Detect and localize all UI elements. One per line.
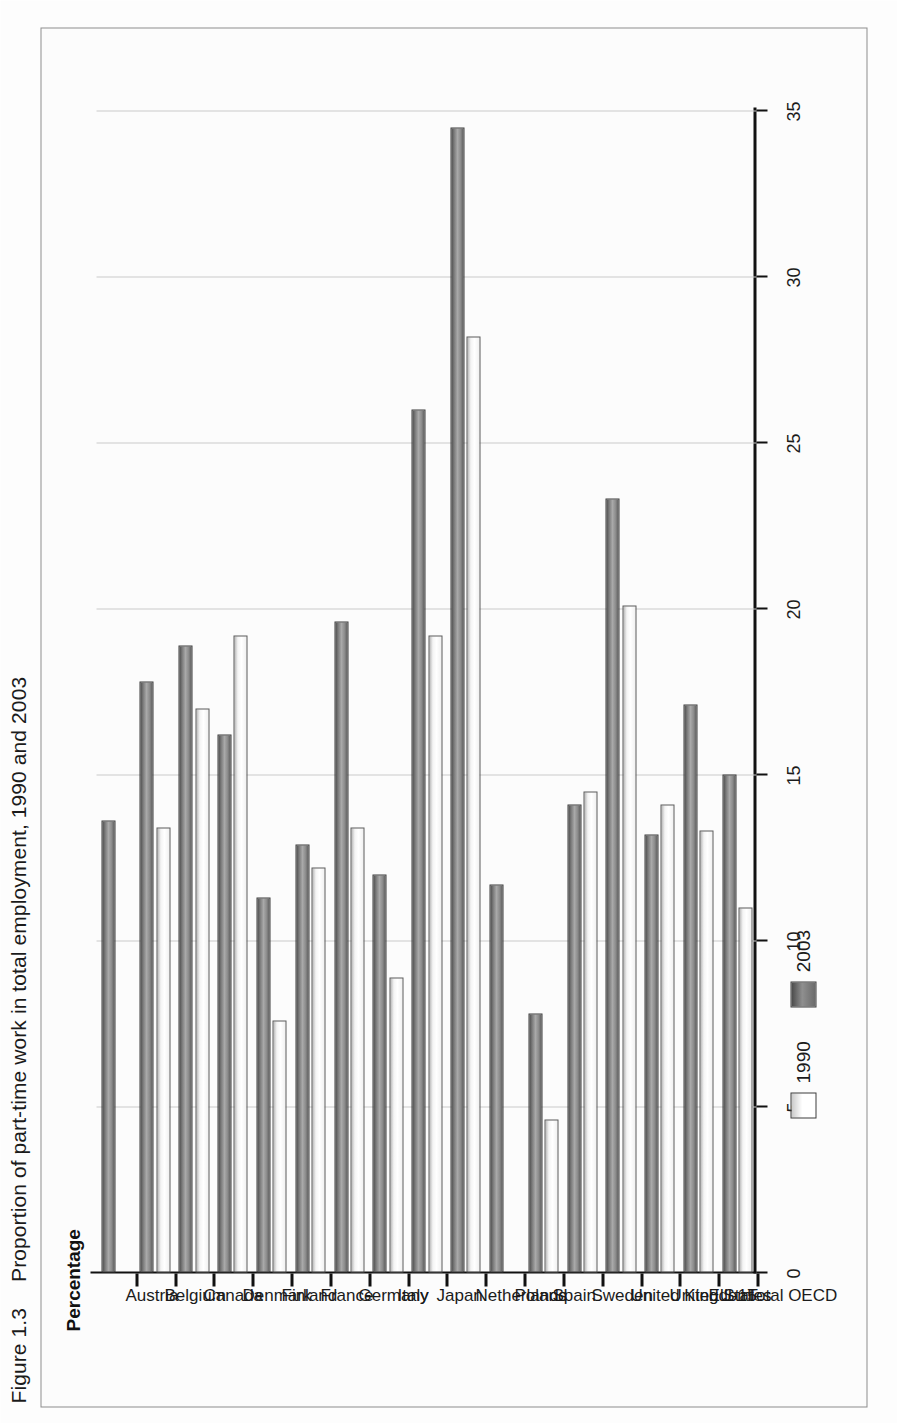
bar-2003 bbox=[334, 621, 348, 1272]
legend-label-1990: 1990 bbox=[792, 1041, 814, 1083]
category-axis-tick bbox=[212, 1273, 215, 1286]
chart-plot-area: 05101520253035AustriaBelgiumCanadaDenmar… bbox=[96, 103, 756, 1331]
gridline bbox=[96, 110, 756, 111]
value-axis-tick bbox=[756, 109, 767, 111]
category-axis-tick bbox=[329, 1273, 332, 1286]
gridline bbox=[96, 442, 756, 443]
bar-1990 bbox=[389, 977, 403, 1272]
bar-2003 bbox=[450, 127, 464, 1272]
chart-canvas: 05101520253035AustriaBelgiumCanadaDenmar… bbox=[96, 103, 756, 1273]
bar-2003 bbox=[683, 704, 697, 1272]
value-axis-title: Percentage bbox=[62, 1229, 84, 1331]
category-axis-tick bbox=[717, 1273, 720, 1286]
value-axis-tick bbox=[756, 275, 767, 277]
bar-1990 bbox=[699, 830, 713, 1272]
bar-1990 bbox=[428, 635, 442, 1272]
bar-2003 bbox=[178, 645, 192, 1272]
value-axis-tick bbox=[756, 939, 767, 941]
value-axis-tick-label: 15 bbox=[783, 765, 804, 785]
bar-2003 bbox=[256, 897, 270, 1272]
value-axis-line bbox=[753, 107, 756, 1273]
category-axis-tick bbox=[640, 1273, 643, 1286]
legend-label-2003: 2003 bbox=[792, 929, 814, 971]
figure-title-text: Proportion of part-time work in total em… bbox=[6, 676, 29, 1281]
value-axis-tick-label: 35 bbox=[783, 101, 804, 121]
bar-1990 bbox=[311, 867, 325, 1272]
bar-2003 bbox=[101, 820, 115, 1272]
category-axis-tick bbox=[484, 1273, 487, 1286]
bar-2003 bbox=[372, 874, 386, 1272]
category-axis-tick bbox=[562, 1273, 565, 1286]
value-axis-tick bbox=[756, 441, 767, 443]
category-label: Total OECD bbox=[747, 1285, 837, 1305]
bar-1990 bbox=[272, 1020, 286, 1272]
value-axis-tick bbox=[756, 1105, 767, 1107]
figure-page: Figure 1.3Proportion of part-time work i… bbox=[0, 0, 897, 1423]
bar-1990 bbox=[350, 827, 364, 1272]
value-axis-tick bbox=[756, 773, 767, 775]
bar-1990 bbox=[466, 336, 480, 1272]
value-axis-tick-label: 0 bbox=[783, 1268, 804, 1278]
category-axis-tick bbox=[368, 1273, 371, 1286]
category-axis-tick bbox=[174, 1273, 177, 1286]
category-axis-tick bbox=[445, 1273, 448, 1286]
legend-item-1990: 1990 bbox=[790, 1041, 816, 1118]
category-label: Italy bbox=[397, 1285, 428, 1305]
bar-2003 bbox=[217, 734, 231, 1272]
category-axis-tick bbox=[135, 1273, 138, 1286]
bar-2003 bbox=[489, 884, 503, 1272]
value-axis-tick bbox=[756, 607, 767, 609]
bar-2003 bbox=[295, 844, 309, 1272]
value-axis-tick-label: 20 bbox=[783, 599, 804, 619]
category-axis-tick bbox=[601, 1273, 604, 1286]
category-axis-tick bbox=[678, 1273, 681, 1286]
category-axis-tick bbox=[407, 1273, 410, 1286]
value-axis-tick-label: 25 bbox=[783, 433, 804, 453]
bar-2003 bbox=[528, 1013, 542, 1272]
bar-1990 bbox=[583, 791, 597, 1272]
category-axis-tick bbox=[290, 1273, 293, 1286]
category-axis-tick bbox=[251, 1273, 254, 1286]
bar-2003 bbox=[644, 834, 658, 1272]
figure-number: Figure 1.3 bbox=[6, 1307, 29, 1403]
bar-1990 bbox=[660, 804, 674, 1272]
bar-1990 bbox=[544, 1119, 558, 1272]
bar-1990 bbox=[738, 907, 752, 1272]
bar-1990 bbox=[195, 708, 209, 1272]
legend-swatch-2003-icon bbox=[790, 981, 816, 1007]
rotated-figure-canvas: Figure 1.3Proportion of part-time work i… bbox=[0, 0, 897, 1423]
chart-legend: 1990 2003 bbox=[790, 929, 816, 1118]
category-label: Spain bbox=[552, 1285, 595, 1305]
bar-2003 bbox=[722, 774, 736, 1272]
bar-2003 bbox=[567, 804, 581, 1272]
bar-2003 bbox=[605, 498, 619, 1272]
legend-item-2003: 2003 bbox=[790, 929, 816, 1006]
bar-1990 bbox=[233, 635, 247, 1272]
gridline bbox=[96, 608, 756, 609]
legend-swatch-1990-icon bbox=[790, 1092, 816, 1118]
bar-2003 bbox=[411, 409, 425, 1272]
bar-1990 bbox=[156, 827, 170, 1272]
gridline bbox=[96, 276, 756, 277]
value-axis-tick-label: 30 bbox=[783, 267, 804, 287]
bar-2003 bbox=[139, 681, 153, 1272]
category-axis-tick bbox=[756, 1273, 759, 1286]
figure-title: Figure 1.3Proportion of part-time work i… bbox=[6, 676, 30, 1403]
bar-1990 bbox=[622, 605, 636, 1272]
category-axis-tick bbox=[523, 1273, 526, 1286]
